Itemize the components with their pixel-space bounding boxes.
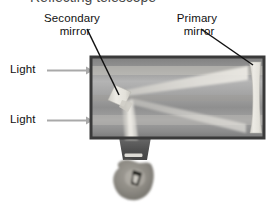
title-descender-clip: Reflecting telescope	[0, 0, 271, 7]
label-light-upper: Light	[10, 63, 35, 76]
title-fragment: Reflecting telescope	[30, 0, 156, 5]
incoming-light-arrow-upper	[47, 67, 93, 75]
label-light-lower: Light	[10, 113, 35, 126]
observer-eye	[113, 160, 154, 200]
incoming-light-arrow-lower	[47, 117, 93, 125]
label-primary-mirror-line2: mirror	[155, 25, 239, 38]
label-primary-mirror-line1: Primary	[177, 12, 217, 24]
label-secondary-mirror-line1: Secondary	[44, 12, 100, 24]
label-secondary-mirror-line2: mirror	[28, 25, 116, 38]
eyepiece	[119, 137, 151, 160]
figure-canvas: Reflecting telescope	[0, 0, 271, 217]
label-secondary-mirror: Secondary mirror	[28, 12, 116, 38]
label-primary-mirror: Primary mirror	[155, 12, 239, 38]
telescope-tube	[91, 57, 264, 140]
